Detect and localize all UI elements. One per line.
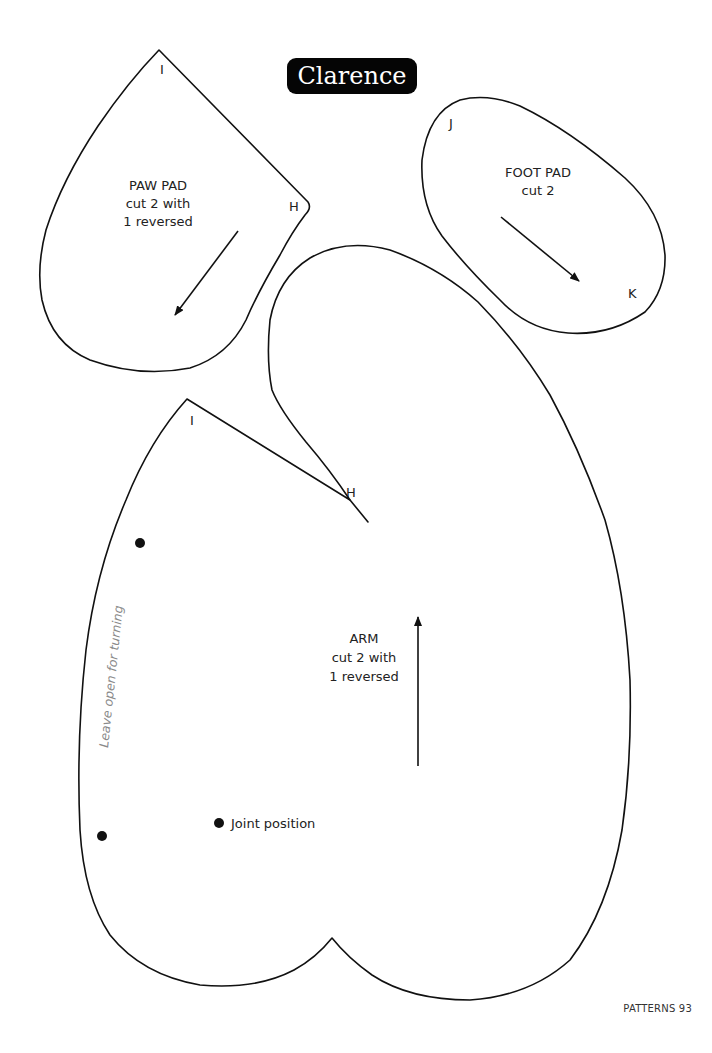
foot-pad-piece: J K FOOT PAD cut 2 [422,98,665,334]
page-footer: PATTERNS 93 [623,1003,692,1014]
pattern-title: Clarence [287,58,417,94]
arm-opening-mark-top [135,538,145,548]
arm-instruction-1: cut 2 with [332,650,397,665]
paw-pad-instruction-2: 1 reversed [123,214,193,229]
arm-instruction-2: 1 reversed [329,669,399,684]
pattern-sheet: I H PAW PAD cut 2 with 1 reversed J K FO… [0,0,712,1053]
paw-pad-instruction-1: cut 2 with [126,196,191,211]
arm-mark-h: H [346,485,356,500]
paw-pad-name: PAW PAD [129,178,187,193]
paw-pad-grainline-arrow [175,231,238,315]
paw-pad-mark-i: I [160,62,164,77]
arm-piece: I H ARM cut 2 with 1 reversed Joint posi… [79,246,630,1001]
foot-pad-grainline-arrow [501,217,579,281]
joint-position-label: Joint position [230,816,315,831]
leave-open-note: Leave open for turning [96,605,126,749]
foot-pad-name: FOOT PAD [505,165,571,180]
arm-h-notch [350,500,368,522]
joint-position-dot [214,818,224,828]
arm-mark-i: I [190,413,194,428]
foot-pad-mark-j: J [448,116,453,131]
foot-pad-instruction-1: cut 2 [522,183,555,198]
foot-pad-mark-k: K [628,286,637,301]
arm-name: ARM [349,631,378,646]
arm-outline [79,246,630,1001]
paw-pad-mark-h: H [289,199,299,214]
arm-opening-mark-bottom [97,831,107,841]
